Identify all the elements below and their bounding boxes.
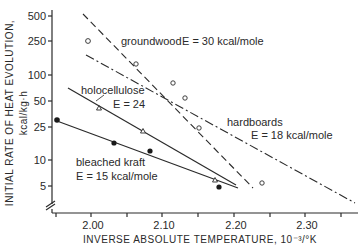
y-tick-label: 500 <box>28 10 46 22</box>
groundwood-label: groundwood <box>121 35 182 47</box>
axis-break-icon <box>46 201 55 207</box>
kraft-point <box>147 148 152 153</box>
arrhenius-chart: 500 250 100 50 25 10 5 2.00 2.10 2.20 2.… <box>0 0 362 251</box>
holocellulose-label: holocellulose <box>81 84 145 96</box>
x-tick-label: 2.20 <box>225 219 246 231</box>
hardboards-point <box>197 126 201 130</box>
y-tick-label: 25 <box>34 121 46 133</box>
hardboards-energy-label: E = 18 kcal/mole <box>251 129 333 141</box>
bleached-kraft-label: bleached kraft <box>76 156 145 168</box>
y-tick-label: 50 <box>34 95 46 107</box>
y-axis <box>46 10 55 213</box>
y-tick-labels: 500 250 100 50 25 10 5 <box>28 10 46 192</box>
hardboards-point <box>183 96 187 100</box>
y-axis-units: kcal/kg·h <box>18 91 29 136</box>
hardboards-point <box>171 81 175 85</box>
kraft-point <box>216 184 221 189</box>
x-tick-label: 2.10 <box>153 219 174 231</box>
holocellulose-point <box>97 106 102 111</box>
x-tick-label: 2.30 <box>296 219 317 231</box>
y-axis-title: INITIAL RATE OF HEAT EVOLUTION, <box>4 20 15 206</box>
hardboards-point <box>260 181 264 185</box>
holocellulose-energy-label: E = 24 <box>113 98 145 110</box>
kraft-point <box>111 140 116 145</box>
y-tick-label: 5 <box>40 180 46 192</box>
hardboards-label: hardboards <box>227 116 283 128</box>
groundwood-point <box>134 62 138 66</box>
bleached-kraft-energy-label: E = 15 kcal/mole <box>76 170 158 182</box>
y-tick-label: 10 <box>34 154 46 166</box>
holocellulose-point <box>213 178 218 183</box>
x-axis-title: INVERSE ABSOLUTE TEMPERATURE, 10⁻³/°K <box>83 234 317 245</box>
groundwood-energy-label: E = 30 kcal/mole <box>182 35 264 47</box>
holocellulose-point <box>141 129 146 134</box>
x-axis <box>52 213 358 217</box>
groundwood-point <box>86 39 91 44</box>
kraft-point <box>54 117 60 123</box>
x-tick-label: 2.00 <box>82 219 103 231</box>
x-tick-labels: 2.00 2.10 2.20 2.30 <box>82 219 317 231</box>
y-tick-label: 250 <box>28 35 46 47</box>
y-tick-label: 100 <box>28 69 46 81</box>
